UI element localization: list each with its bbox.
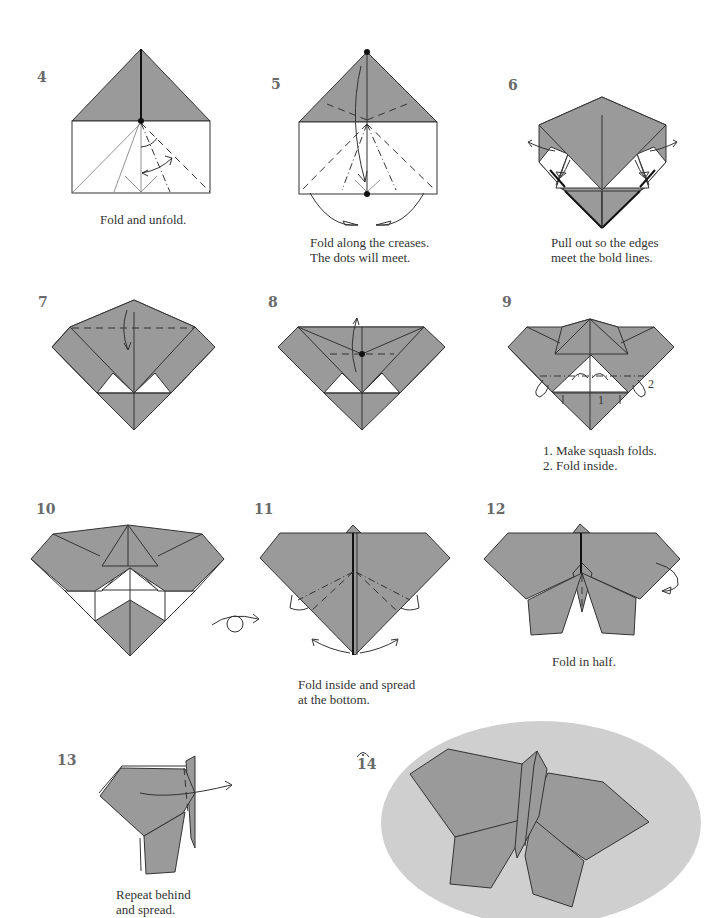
step-14-diagram — [0, 0, 714, 918]
